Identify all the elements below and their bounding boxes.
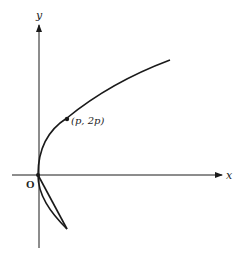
y-axis-label: y: [35, 9, 43, 22]
parabola-diagram: y x O (p, 2p): [0, 0, 243, 258]
origin-label: O: [26, 178, 35, 190]
point-p-2p: [65, 117, 69, 121]
origin-point: [36, 173, 40, 177]
parabola-curve: [38, 175, 67, 229]
x-axis-label: x: [226, 169, 233, 182]
point-label: (p, 2p): [71, 115, 104, 126]
